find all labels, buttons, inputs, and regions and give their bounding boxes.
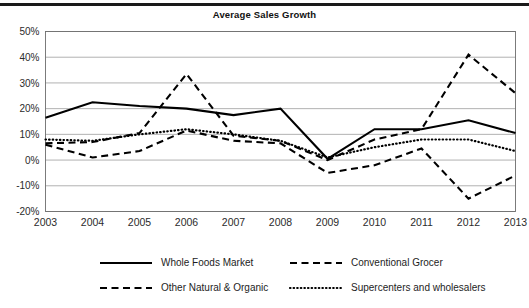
x-axis-tick-label: 2003 bbox=[34, 216, 58, 228]
x-axis-tick-label: 2012 bbox=[457, 216, 481, 228]
gridlines-group bbox=[46, 32, 516, 212]
y-axis-tick-label: 0% bbox=[25, 155, 40, 166]
y-axis-tick-label: 10% bbox=[19, 129, 39, 140]
y-axis-tick-labels: 50%40%30%20%10%0%-10%-20% bbox=[16, 26, 39, 217]
chart-legend: Whole Foods MarketConventional GrocerOth… bbox=[100, 257, 486, 293]
series-line-conventional-grocer bbox=[46, 131, 516, 199]
x-axis-tick-label: 2008 bbox=[269, 216, 293, 228]
data-series-group bbox=[46, 55, 516, 199]
y-axis-tick-label: 20% bbox=[19, 103, 39, 114]
x-axis-tick-label: 2011 bbox=[410, 216, 433, 228]
y-axis-tick-label: 30% bbox=[19, 78, 39, 89]
y-axis-tick-label: -10% bbox=[16, 180, 39, 191]
x-axis-tick-label: 2009 bbox=[316, 216, 340, 228]
legend-label-other-natural-organic: Other Natural & Organic bbox=[161, 282, 268, 293]
x-axis-tick-label: 2006 bbox=[175, 216, 199, 228]
legend-label-whole-foods-market: Whole Foods Market bbox=[161, 257, 253, 268]
x-axis-tick-labels: 2003200420052006200720082009201020112012… bbox=[34, 216, 528, 228]
chart-plot-area: 50%40%30%20%10%0%-10%-20% 20032004200520… bbox=[0, 0, 529, 308]
legend-label-supercenters-and-wholesalers: Supercenters and wholesalers bbox=[351, 282, 486, 293]
x-axis-tick-label: 2005 bbox=[128, 216, 152, 228]
legend-label-conventional-grocer: Conventional Grocer bbox=[351, 257, 443, 268]
plot-frame bbox=[46, 32, 516, 212]
series-line-whole-foods-market bbox=[46, 102, 516, 159]
x-axis-tick-label: 2010 bbox=[363, 216, 387, 228]
x-axis-tick-label: 2007 bbox=[222, 216, 246, 228]
y-axis-tick-label: 50% bbox=[19, 26, 39, 37]
y-axis-tick-label: 40% bbox=[19, 52, 39, 63]
chart-figure: Average Sales Growth 50%40%30%20%10%0%-1… bbox=[0, 0, 529, 308]
x-axis-tick-label: 2013 bbox=[504, 216, 528, 228]
x-axis-tick-label: 2004 bbox=[81, 216, 105, 228]
